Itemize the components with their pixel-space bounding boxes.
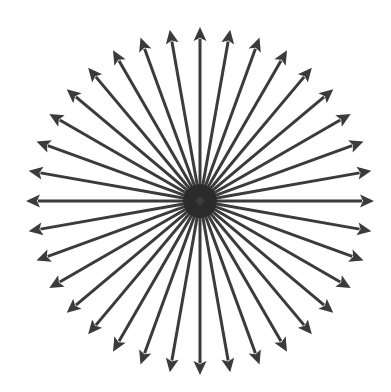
arrowhead-icon bbox=[26, 195, 40, 208]
arrowhead-icon bbox=[194, 27, 207, 41]
arrowhead-icon bbox=[360, 195, 374, 208]
radial-arrows-diagram bbox=[0, 0, 391, 392]
arrowhead-icon bbox=[194, 361, 207, 375]
diagram-canvas bbox=[0, 0, 391, 392]
center-point-icon bbox=[183, 184, 217, 218]
